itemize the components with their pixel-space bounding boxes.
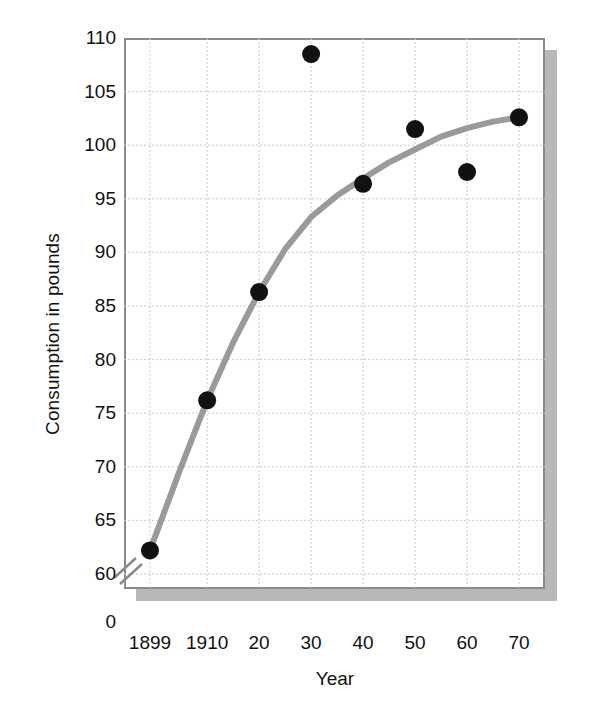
y-tick-label: 0	[56, 612, 116, 631]
y-tick-label: 100	[56, 135, 116, 154]
data-point	[458, 163, 476, 181]
y-tick-label: 105	[56, 82, 116, 101]
y-tick-label: 80	[56, 350, 116, 369]
data-point	[198, 391, 216, 409]
data-point	[354, 175, 372, 193]
y-tick-label: 110	[56, 28, 116, 47]
y-tick-label: 95	[56, 189, 116, 208]
y-tick-label: 85	[56, 296, 116, 315]
data-point	[250, 283, 268, 301]
trend-curve	[150, 117, 519, 550]
x-tick-label: 70	[489, 633, 549, 652]
y-axis-ticks: 06065707580859095100105110	[0, 0, 116, 703]
data-point	[406, 120, 424, 138]
y-tick-label: 70	[56, 457, 116, 476]
y-tick-label: 60	[56, 564, 116, 583]
plot-area	[124, 38, 545, 589]
chart-figure: Consumption in pounds 060657075808590951…	[0, 0, 597, 703]
data-points	[141, 45, 528, 559]
data-point	[510, 108, 528, 126]
y-tick-label: 75	[56, 403, 116, 422]
y-tick-label: 65	[56, 510, 116, 529]
y-tick-label: 90	[56, 242, 116, 261]
x-axis-title: Year	[124, 668, 546, 690]
data-point	[302, 45, 320, 63]
gridlines	[124, 38, 545, 589]
x-tick-label: 1899	[120, 633, 180, 652]
